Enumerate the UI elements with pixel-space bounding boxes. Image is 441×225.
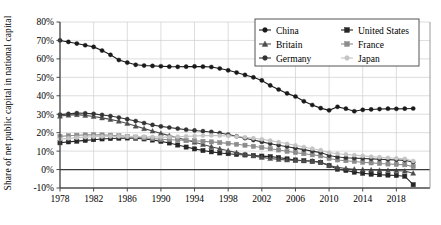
data-point: [75, 136, 79, 140]
data-point: [234, 142, 238, 146]
data-point: [277, 87, 281, 91]
data-point: [268, 138, 272, 142]
data-point: [302, 152, 306, 156]
data-point: [377, 161, 381, 165]
data-point: [209, 140, 213, 144]
x-tick-label: 1982: [84, 194, 103, 204]
data-point: [159, 135, 163, 139]
data-point: [218, 66, 222, 70]
y-tick-label: 20%: [37, 128, 55, 138]
y-tick-label: 70%: [37, 36, 55, 46]
data-point: [345, 56, 350, 61]
legend-label: France: [358, 40, 384, 50]
data-point: [352, 109, 356, 113]
data-point: [176, 65, 180, 69]
data-point: [411, 165, 415, 169]
data-point: [184, 145, 188, 149]
data-point: [251, 144, 255, 148]
data-point: [327, 108, 331, 112]
data-point: [403, 157, 407, 161]
data-point: [386, 173, 390, 177]
data-point: [243, 135, 247, 139]
chart-legend: ChinaUnited StatesBritainFranceGermanyJa…: [255, 19, 419, 66]
data-point: [108, 134, 112, 138]
data-point: [386, 107, 390, 111]
data-point: [159, 124, 163, 128]
data-point: [310, 147, 314, 151]
data-point: [285, 91, 289, 95]
data-point: [100, 113, 104, 117]
x-tick-label: 2010: [320, 194, 339, 204]
data-point: [411, 159, 415, 163]
data-point: [125, 117, 129, 121]
data-point: [117, 58, 121, 62]
data-point: [226, 134, 230, 138]
data-point: [83, 111, 87, 115]
legend-label: Germany: [276, 54, 312, 64]
data-point: [83, 135, 87, 139]
data-point: [134, 134, 138, 138]
data-point: [134, 63, 138, 67]
data-point: [260, 145, 264, 149]
data-point: [260, 78, 264, 82]
data-point: [201, 148, 205, 152]
data-point: [377, 173, 381, 177]
data-point: [66, 40, 70, 44]
data-point: [167, 125, 171, 129]
data-point: [369, 155, 373, 159]
data-point: [369, 107, 373, 111]
x-tick-label: 2006: [286, 194, 305, 204]
data-point: [335, 152, 339, 156]
legend-label: Britain: [276, 40, 303, 50]
data-point: [134, 119, 138, 123]
data-point: [243, 143, 247, 147]
data-point: [293, 94, 297, 98]
y-axis-ticks: 80%70%60%50%40%30%20%10%0%-10%: [33, 17, 60, 193]
data-point: [192, 139, 196, 143]
chart-plot: 80%70%60%50%40%30%20%10%0%-10% 197819821…: [0, 0, 441, 225]
data-point: [176, 135, 180, 139]
data-point: [92, 135, 96, 139]
data-point: [142, 135, 146, 139]
data-point: [184, 128, 188, 132]
data-point: [218, 141, 222, 145]
data-point: [260, 137, 264, 141]
data-point: [209, 65, 213, 69]
series-line: [60, 135, 413, 161]
data-point: [327, 150, 331, 154]
data-point: [234, 134, 238, 138]
data-point: [75, 41, 79, 45]
data-point: [377, 155, 381, 159]
data-point: [201, 129, 205, 133]
data-point: [335, 105, 339, 109]
data-point: [377, 107, 381, 111]
data-point: [268, 83, 272, 87]
x-tick-label: 2014: [353, 194, 372, 204]
data-point: [394, 162, 398, 166]
y-tick-label: 10%: [37, 147, 55, 157]
data-point: [167, 135, 171, 139]
data-point: [209, 150, 213, 154]
data-point: [369, 161, 373, 165]
data-point: [209, 133, 213, 137]
data-point: [192, 128, 196, 132]
legend-label: Japan: [358, 54, 380, 64]
y-tick-label: 40%: [37, 91, 55, 101]
data-point: [184, 65, 188, 69]
x-tick-label: 2002: [252, 194, 271, 204]
data-point: [234, 70, 238, 74]
data-point: [142, 121, 146, 125]
data-point: [243, 73, 247, 77]
data-point: [302, 145, 306, 149]
data-point: [184, 138, 188, 142]
data-point: [319, 106, 323, 110]
y-tick-label: 0%: [41, 165, 54, 175]
data-point: [92, 112, 96, 116]
data-point: [268, 147, 272, 151]
data-point: [361, 108, 365, 112]
data-point: [150, 135, 154, 139]
data-point: [226, 141, 230, 145]
data-point: [344, 107, 348, 111]
data-point: [142, 63, 146, 67]
data-point: [386, 162, 390, 166]
